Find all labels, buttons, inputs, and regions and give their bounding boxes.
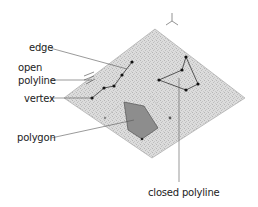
vertex-marker xyxy=(141,138,144,141)
label-closed-polyline: closed polyline xyxy=(148,187,220,198)
label-polygon: polygon xyxy=(17,132,56,143)
label-edge: edge xyxy=(29,42,53,53)
vertex-marker xyxy=(104,117,106,119)
label-polyline: polyline xyxy=(18,75,56,86)
axis-icon xyxy=(166,13,178,25)
label-open: open xyxy=(18,62,42,73)
ground-plane xyxy=(64,29,245,158)
vertex-marker xyxy=(169,117,172,120)
label-vertex: vertex xyxy=(24,93,55,104)
